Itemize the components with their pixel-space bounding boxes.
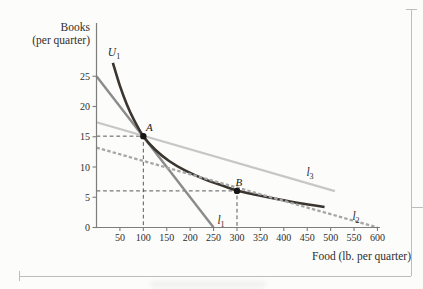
x-tick-label-600: 600	[370, 232, 385, 243]
y-axis-title: Books (per quarter)	[14, 21, 90, 47]
page-rule-left-cap	[19, 271, 20, 281]
x-tick-label-450: 450	[300, 232, 315, 243]
x-tick-label-200: 200	[183, 232, 198, 243]
point-dot-B	[234, 188, 240, 194]
y-tick-label-15: 15	[80, 131, 90, 142]
curve-label-l1: l1	[217, 214, 224, 229]
page-rule-right-tick	[411, 207, 423, 208]
y-tick-label-5: 5	[85, 192, 90, 203]
point-dot-A	[140, 133, 146, 139]
x-tick-label-350: 350	[253, 232, 268, 243]
guide-dashed-1	[97, 191, 237, 228]
point-label-B: B	[236, 176, 243, 188]
x-axis-title: Food (lb. per quarter)	[250, 250, 411, 263]
x-tick-label-400: 400	[276, 232, 291, 243]
page-rule-right	[411, 10, 412, 276]
x-tick-label-500: 500	[323, 232, 338, 243]
y-tick-label-0: 0	[85, 222, 90, 233]
x-tick-label-100: 100	[136, 232, 151, 243]
x-tick-label-50: 50	[115, 232, 125, 243]
curve-label-U1: U1	[108, 46, 120, 61]
page-rule-top-cap	[406, 9, 417, 10]
y-tick-label-25: 25	[80, 71, 90, 82]
y-axis-title-line2: (per quarter)	[14, 34, 90, 47]
y-tick-label-10: 10	[80, 162, 90, 173]
page-rule-bottom	[19, 276, 411, 277]
scan-smudge	[150, 281, 266, 288]
point-label-A: A	[145, 121, 153, 133]
y-axis-title-line1: Books	[14, 21, 90, 34]
x-tick-label-300: 300	[229, 232, 244, 243]
y-tick-label-20: 20	[80, 101, 90, 112]
x-tick-label-550: 550	[347, 232, 362, 243]
figure: 5010015020025030035040045050055060005101…	[0, 0, 423, 289]
x-tick-label-150: 150	[159, 232, 174, 243]
curve-label-l2: l2	[352, 210, 359, 225]
x-tick-label-250: 250	[206, 232, 221, 243]
curve-label-l3: l3	[306, 166, 313, 181]
